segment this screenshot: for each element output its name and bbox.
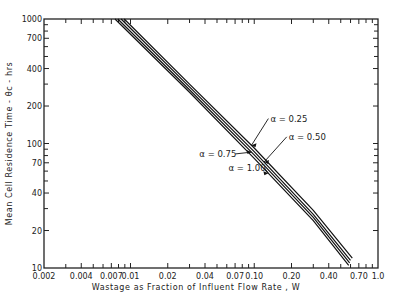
y-tick-label: 1000 [22, 15, 42, 24]
annotation-label: α = 1.00 [229, 163, 266, 173]
x-tick-label: 1.0 [372, 272, 385, 281]
x-tick-label: 0.04 [196, 272, 214, 281]
annotations: α = 0.25α = 0.50α = 0.75α = 1.00 [199, 114, 325, 176]
annotation-label: α = 0.75 [199, 149, 236, 159]
y-tick-label: 400 [27, 65, 42, 74]
x-tick-label: 0.40 [320, 272, 338, 281]
series-line-100 [115, 19, 349, 265]
plot-frame [44, 19, 378, 268]
annotation-leader [251, 119, 268, 146]
y-tick-label: 10 [32, 264, 42, 273]
annotation-leader [264, 137, 287, 162]
y-tick-label: 20 [32, 227, 42, 236]
x-tick-label: 0.01 [122, 272, 140, 281]
y-tick-label: 70 [32, 159, 42, 168]
y-tick-label: 200 [27, 102, 42, 111]
x-tick-label: 0.70 [350, 272, 368, 281]
x-tick-label: 0.004 [70, 272, 93, 281]
x-tick-label: 0.007 [100, 272, 123, 281]
x-tick-label: 0.07 [226, 272, 244, 281]
y-axis-title: Mean Cell Residence Time - θc - hrs [5, 62, 14, 226]
x-tick-label: 0.002 [33, 272, 56, 281]
x-axis-title: Wastage as Fraction of Influent Flow Rat… [92, 283, 300, 292]
y-tick-label: 100 [27, 140, 42, 149]
y-tick-label: 40 [32, 189, 42, 198]
series-lines [115, 19, 352, 265]
chart: 0.0020.0040.0070.010.020.040.070.100.200… [0, 0, 402, 305]
y-tick-label: 700 [27, 34, 42, 43]
x-tick-label: 0.02 [159, 272, 177, 281]
annotation-label: α = 0.50 [289, 132, 326, 142]
x-tick-label: 0.10 [245, 272, 263, 281]
x-tick-label: 0.20 [283, 272, 301, 281]
annotation-label: α = 0.25 [270, 114, 307, 124]
